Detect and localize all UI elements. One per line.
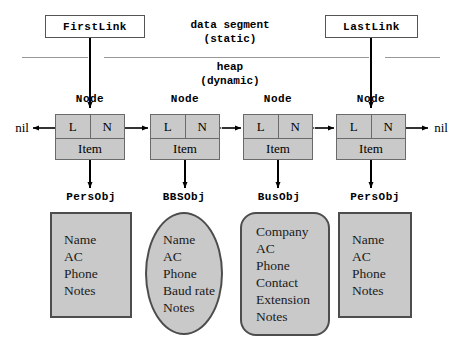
nil-left-label: nil [10,120,34,136]
object-type-label-2: BBSObj [145,191,223,203]
node-item-cell: Item [244,138,312,159]
object-field: AC [256,240,328,257]
firstlink-label: FirstLink [63,21,127,33]
object-field: AC [163,248,221,265]
node-type-label-1: Node [60,93,120,105]
object-field: Phone [163,265,221,282]
heap-segment-line2: (dynamic) [160,74,300,88]
node-prev-cell: L [151,115,186,138]
node-item-cell: Item [151,138,219,159]
object-field: Name [64,231,130,248]
object-type-label-1: PersObj [50,191,132,203]
node-type-label-3: Node [248,93,308,105]
segment-divider-right [385,57,440,58]
object-field: Notes [64,282,130,299]
node-item-cell: Item [56,138,124,159]
object-shape-bbsobj[interactable]: Name AC Phone Baud rate Notes [145,212,223,335]
node-box-4[interactable]: L N Item [336,114,406,160]
object-field: Phone [256,257,328,274]
node-next-cell: N [279,115,313,138]
heap-segment-line1: heap [160,60,300,74]
object-field: Extension [256,291,328,308]
node-box-2[interactable]: L N Item [150,114,220,160]
object-type-label-4: PersObj [334,191,416,203]
object-field: Notes [352,282,410,299]
object-field: Notes [163,299,221,316]
object-field: Name [352,231,410,248]
diagram-canvas: data segment (static) heap (dynamic) Fir… [0,0,461,360]
object-field: Notes [256,308,328,325]
heap-segment-caption: heap (dynamic) [160,60,300,88]
segment-divider-middle [104,57,369,58]
node-prev-cell: L [56,115,91,138]
object-type-label-3: BusObj [240,191,318,203]
node-pointer-row: L N [56,115,124,138]
object-shape-persobj-2[interactable]: Name AC Phone Notes [338,212,412,318]
node-box-3[interactable]: L N Item [243,114,313,160]
node-item-cell: Item [337,138,405,159]
object-field: Contact [256,274,328,291]
node-pointer-row: L N [244,115,312,138]
object-field: Company [256,223,328,240]
lastlink-label: LastLink [343,21,400,33]
object-field: Phone [64,265,130,282]
object-field: Name [163,231,221,248]
node-pointer-row: L N [337,115,405,138]
node-prev-cell: L [337,115,372,138]
firstlink-variable-box[interactable]: FirstLink [45,15,145,38]
node-next-cell: N [186,115,220,138]
object-field: Baud rate [163,282,221,299]
node-next-cell: N [372,115,406,138]
node-type-label-2: Node [155,93,215,105]
nil-right-label: nil [429,120,453,136]
data-segment-line1: data segment [160,18,300,32]
object-shape-busobj[interactable]: Company AC Phone Contact Extension Notes [240,212,330,336]
data-segment-caption: data segment (static) [160,18,300,46]
data-segment-line2: (static) [160,32,300,46]
object-field: AC [64,248,130,265]
node-type-label-4: Node [341,93,401,105]
node-box-1[interactable]: L N Item [55,114,125,160]
lastlink-variable-box[interactable]: LastLink [325,15,418,38]
object-shape-persobj-1[interactable]: Name AC Phone Notes [50,212,132,318]
object-field: Phone [352,265,410,282]
node-prev-cell: L [244,115,279,138]
node-pointer-row: L N [151,115,219,138]
node-next-cell: N [91,115,125,138]
object-field: AC [352,248,410,265]
segment-divider-left [22,57,88,58]
